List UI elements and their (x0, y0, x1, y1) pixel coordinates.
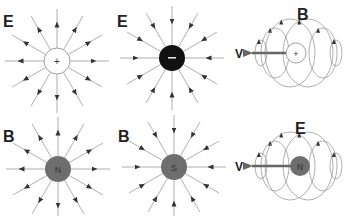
field-diagram: + E E + V B N B S B N V E (0, 0, 346, 216)
field-line (146, 13, 166, 47)
panel-south-monopole-field: S B (118, 115, 226, 216)
field-line (179, 13, 199, 47)
field-line (68, 35, 102, 55)
field-line (65, 180, 85, 214)
field-line (179, 69, 199, 103)
panel-moving-positive-charge: + V B (235, 6, 342, 87)
field-line (181, 122, 201, 156)
field-label: E (117, 13, 128, 30)
field-line (13, 176, 47, 196)
field-line (183, 65, 217, 85)
charge-symbol: S (171, 163, 177, 173)
panel-north-monopole-field: N B (3, 117, 110, 216)
field-label: E (295, 120, 306, 137)
arrowhead-icon (257, 152, 261, 157)
field-line (146, 69, 166, 103)
field-line (69, 176, 103, 196)
field-label: E (3, 13, 14, 30)
arrowhead-icon (257, 39, 261, 44)
field-line (31, 16, 51, 50)
field-line (69, 143, 103, 163)
field-line (32, 124, 52, 158)
minus-sign (168, 57, 176, 59)
field-line (148, 178, 168, 212)
field-line (185, 141, 219, 161)
field-line (64, 16, 84, 50)
panel-positive-charge-field: + E (3, 9, 109, 113)
velocity-label: V (235, 160, 243, 174)
field-line (183, 32, 217, 52)
field-line (181, 178, 201, 212)
charge-symbol: N (55, 165, 62, 175)
charge-symbol: + (293, 49, 298, 59)
field-line (185, 174, 219, 194)
field-line (13, 143, 47, 163)
charge-symbol: + (54, 56, 60, 67)
field-label: B (118, 128, 130, 145)
field-label: B (3, 128, 15, 145)
field-line (68, 68, 102, 88)
field-line (129, 174, 163, 194)
field-line (31, 72, 51, 106)
field-line (127, 65, 161, 85)
field-line (12, 35, 46, 55)
field-line (129, 141, 163, 161)
field-line (127, 32, 161, 52)
panel-moving-north-monopole: N V E (235, 120, 342, 200)
charge-symbol: N (297, 162, 304, 172)
field-line (148, 122, 168, 156)
velocity-label: V (235, 47, 243, 61)
field-line (32, 180, 52, 214)
field-line (65, 124, 85, 158)
field-line (64, 72, 84, 106)
field-line (12, 68, 46, 88)
panel-negative-charge-field: E (117, 6, 224, 110)
field-label: B (297, 6, 309, 23)
